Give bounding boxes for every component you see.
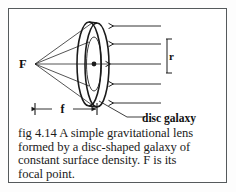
converging-ray-group — [35, 23, 110, 105]
figure-frame: f r F disc galaxy fig 4.14 A s — [8, 8, 227, 183]
focal-point-label: F — [19, 57, 27, 71]
converging-ray-2 — [35, 42, 89, 64]
disc-rim-bottom — [89, 106, 97, 107]
caption-line-4: focal point. — [18, 168, 222, 182]
diagram-area: f r F disc galaxy — [9, 9, 225, 129]
gravitational-lens-diagram: f r F disc galaxy — [9, 9, 225, 129]
caption-line-1: fig 4.14 A simple gravitational lens — [18, 127, 222, 141]
disc-galaxy-shape — [77, 22, 109, 107]
caption-line-2: formed by a disc-shaped galaxy of — [18, 141, 222, 155]
radius-label: r — [169, 50, 174, 62]
caption-line-3: constant surface density. F is its — [18, 154, 222, 168]
figure-root: f r F disc galaxy fig 4.14 A s — [0, 0, 236, 192]
converging-ray-5 — [35, 64, 92, 105]
incoming-ray-group — [110, 26, 161, 103]
disc-galaxy-label: disc galaxy — [142, 112, 196, 125]
disc-center-dot — [92, 62, 97, 67]
disc-rim-top — [89, 22, 97, 23]
converging-ray-1 — [35, 23, 92, 64]
focal-length-dimension — [35, 103, 97, 115]
converging-ray-4 — [35, 64, 89, 86]
focal-length-label: f — [61, 102, 66, 116]
figure-caption: fig 4.14 A simple gravitational lens for… — [18, 127, 222, 181]
